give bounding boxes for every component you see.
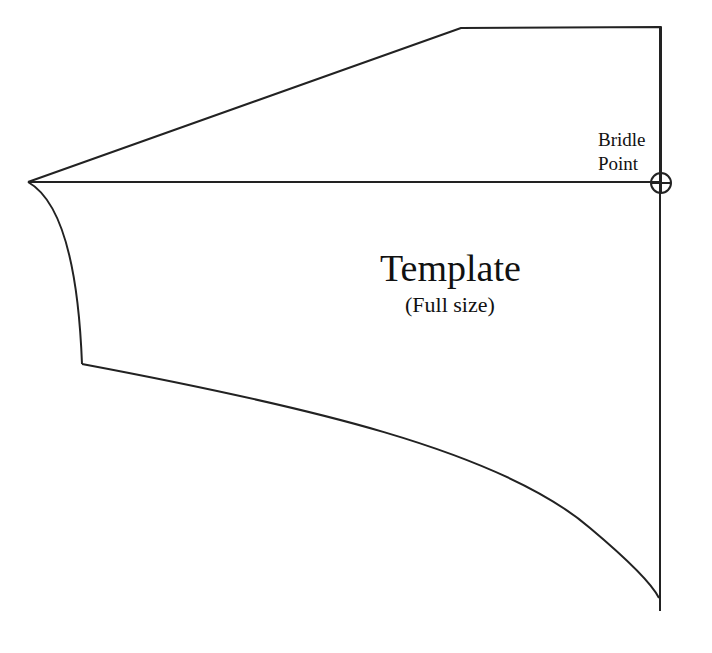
bridle-label-line2: Point <box>598 152 646 176</box>
bridle-point-label: Bridle Point <box>598 128 646 176</box>
leading-edge-curve <box>28 182 82 364</box>
bridle-label-line1: Bridle <box>598 128 646 152</box>
template-diagram: Bridle Point Template (Full size) <box>0 0 712 653</box>
bridle-point-icon <box>651 173 671 193</box>
template-title: Template <box>380 246 521 290</box>
trailing-edge-curve <box>82 364 659 598</box>
template-subtitle: (Full size) <box>405 292 495 318</box>
template-outline <box>0 0 712 653</box>
upper-edge <box>28 27 661 182</box>
